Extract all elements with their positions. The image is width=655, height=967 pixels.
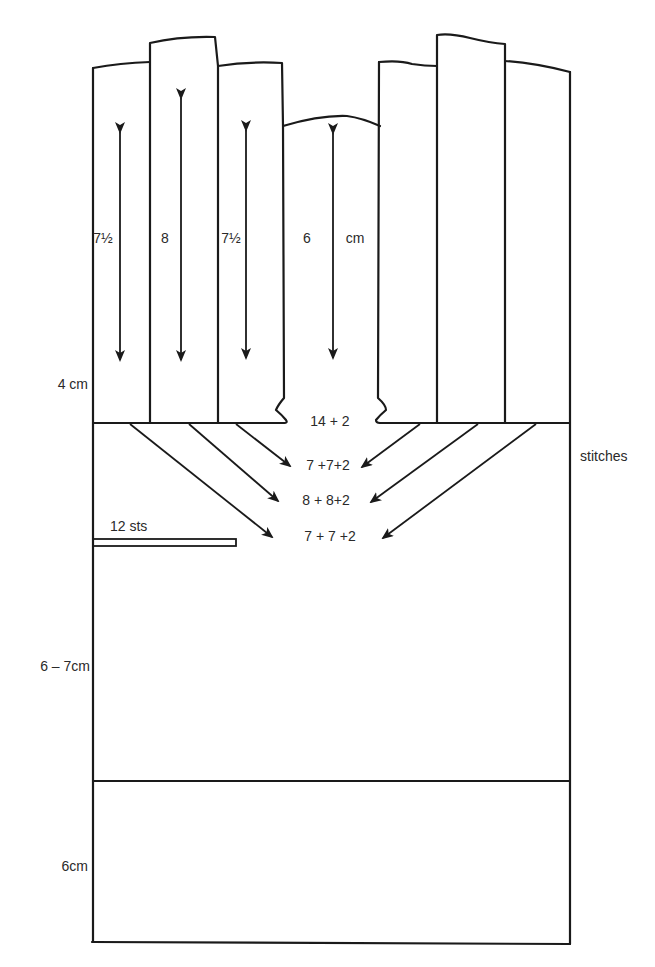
upper-section-height: 4 cm <box>58 376 88 392</box>
bottom-edge <box>92 942 570 944</box>
neck-stitches-label: 14 + 2 <box>310 413 350 429</box>
left-arrow-row2 <box>189 424 278 501</box>
neck-top <box>283 116 380 126</box>
neck-right-edge <box>376 62 386 423</box>
panel-1-top <box>93 62 150 68</box>
stitch-grouping-arrows <box>130 424 536 538</box>
holder-label: 12 sts <box>110 518 147 534</box>
stitch-holder <box>93 539 236 546</box>
row1-label: 7 +7+2 <box>306 457 350 473</box>
split-panels <box>93 34 570 423</box>
panel-7-top <box>505 61 570 72</box>
left-arrow-row1 <box>236 424 290 466</box>
panel-4-label: 6 <box>303 230 311 246</box>
lower-section-height: 6cm <box>62 858 88 874</box>
panel-2-label: 8 <box>161 230 169 246</box>
left-arrow-row3 <box>130 424 272 537</box>
panel-6 <box>437 34 505 423</box>
knitting-schematic: 7½ 8 7½ 6 cm 14 + 2 7 +7+2 8 + 8+2 7 + 7… <box>0 0 655 967</box>
panel-measure-arrows <box>120 98 333 360</box>
panel-5-top <box>379 61 437 66</box>
right-arrow-row2 <box>371 424 478 502</box>
neck-left-edge <box>276 126 287 423</box>
right-arrow-row1 <box>362 424 420 467</box>
panel-3-label: 7½ <box>221 230 241 246</box>
middle-section-height: 6 – 7cm <box>40 658 90 674</box>
row2-label: 8 + 8+2 <box>302 492 350 508</box>
unit-label: cm <box>346 230 365 246</box>
row3-label: 7 + 7 +2 <box>304 528 356 544</box>
stitches-label: stitches <box>580 448 627 464</box>
right-arrow-row3 <box>383 424 536 538</box>
panel-1-label: 7½ <box>93 230 113 246</box>
